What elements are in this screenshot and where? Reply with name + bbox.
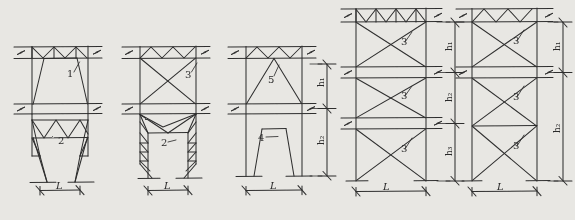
panel-5-member-label-3: 3 [513,140,519,151]
truss-elevations-drawing: 1 2 L 3 2 L 5 4 L h₁ h₂ 3 3 3 L h₁ h₂ h₃… [0,0,575,220]
panel-4-span-label: L [382,181,390,192]
panel-4-height-label-h1: h₁ [444,42,454,51]
panel-3-span-label: L [269,180,277,191]
panel-4-member-label-2: 3 [401,90,407,101]
panel-5-member-label-2: 3 [513,91,519,102]
panel-1-span-label: L [55,180,63,191]
panel-4-height-label-h3: h₃ [444,146,454,156]
panel-2-member-label-2: 2 [161,137,167,148]
panel-3-member-label-4: 4 [258,132,264,143]
figure-sheet: 1 2 L 3 2 L 5 4 L h₁ h₂ 3 3 3 L h₁ h₂ h₃… [0,0,575,220]
panel-1 [14,46,102,195]
panel-2-member-label-1: 3 [185,69,191,80]
panel-1-member-label-2: 2 [58,135,64,146]
panel-4-member-label-3: 3 [401,143,407,154]
panel-3-member-label-5: 5 [268,74,274,85]
panel-3-height-label-h2: h₂ [316,135,326,145]
panel-4-height-label-h2: h₂ [444,92,454,102]
panel-5-span-label: L [496,181,504,192]
panel-3-height-label-h1: h₁ [316,78,326,87]
panel-2-span-label: L [163,180,171,191]
panel-5-height-label-h1: h₁ [552,42,562,51]
panel-5-height-label-h2: h₂ [552,123,562,133]
panel-2 [122,46,210,195]
panel-5-member-label-1: 3 [513,35,519,46]
panel-1-member-label-1: 1 [67,68,73,79]
panel-4-member-label-1: 3 [401,36,407,47]
panel-3 [228,46,336,195]
